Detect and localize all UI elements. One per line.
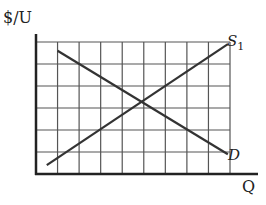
supply-curve xyxy=(47,44,228,165)
supply-label-text: S xyxy=(227,32,237,50)
chart-svg xyxy=(0,0,266,205)
demand-label: D xyxy=(228,146,240,164)
supply-label-subscript: 1 xyxy=(237,40,244,53)
supply-label: S1 xyxy=(227,32,244,53)
demand-curve xyxy=(58,51,228,154)
x-axis-label: Q xyxy=(242,177,255,196)
y-axis-label: $/U xyxy=(3,8,32,27)
